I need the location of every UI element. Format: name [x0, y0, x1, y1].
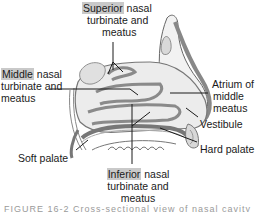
- label-superior-nasal-turbinate: Superior nasal turbinate and meatus: [82, 2, 152, 38]
- label-middle-nasal-turbinate: Middle nasal turbinate and meatus: [1, 68, 62, 104]
- label-middle-line1: nasal: [34, 68, 62, 80]
- label-middle-highlight: Middle: [1, 68, 34, 80]
- label-soft-palate: Soft palate: [18, 152, 68, 164]
- label-superior-line2: turbinate and: [82, 14, 152, 26]
- label-inferior-line2: turbinate and: [98, 180, 178, 192]
- label-atrium-of-middle-meatus: Atrium of middle meatus: [212, 78, 254, 114]
- teeth: [108, 147, 164, 150]
- label-inferior-nasal-turbinate: Inferior nasal turbinate and meatus: [98, 168, 178, 204]
- figure-caption: FIGURE 16-2 Cross-sectional view of nasa…: [4, 204, 251, 212]
- label-middle-line3: meatus: [1, 92, 62, 104]
- label-atrium-line3: meatus: [212, 102, 254, 114]
- label-vestibule: Vestibule: [200, 118, 243, 130]
- label-inferior-line1: nasal: [141, 168, 169, 180]
- label-inferior-line3: meatus: [98, 192, 178, 204]
- label-superior-highlight: Superior: [82, 2, 124, 14]
- label-atrium-line1: Atrium of: [212, 78, 254, 90]
- label-inferior-highlight: Inferior: [107, 168, 142, 180]
- label-superior-line3: meatus: [82, 26, 152, 38]
- label-atrium-line2: middle: [212, 90, 254, 102]
- label-superior-line1: nasal: [124, 2, 152, 14]
- label-hard-palate: Hard palate: [200, 143, 254, 155]
- label-middle-line2: turbinate and: [1, 80, 62, 92]
